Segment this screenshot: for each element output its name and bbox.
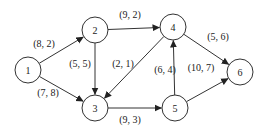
- node-label-2: 2: [93, 25, 98, 36]
- node-label-5: 5: [173, 103, 178, 114]
- node-label-6: 6: [238, 67, 243, 78]
- node-label-4: 4: [171, 22, 176, 33]
- node-label-3: 3: [93, 103, 98, 114]
- edge-label-4-6: (5, 6): [207, 31, 229, 43]
- edge-label-5-6: (10, 7): [188, 62, 215, 74]
- node-label-1: 1: [26, 65, 31, 76]
- edge-label-1-2: (8, 2): [33, 38, 55, 50]
- edge-label-2-4: (9, 2): [119, 9, 141, 21]
- edge-label-5-4: (6, 4): [154, 64, 176, 76]
- edge-label-2-3: (5, 5): [69, 58, 91, 70]
- edge-label-4-3: (2, 1): [112, 58, 134, 70]
- edge-label-3-5: (9, 3): [119, 114, 141, 126]
- edge-2-4: [108, 28, 160, 30]
- network-diagram: 123456 (8, 2)(7, 8)(9, 2)(5, 5)(2, 1)(9,…: [0, 0, 267, 129]
- edge-5-6: [186, 79, 228, 102]
- graph-canvas: 123456 (8, 2)(7, 8)(9, 2)(5, 5)(2, 1)(9,…: [0, 0, 267, 129]
- edge-label-1-3: (7, 8): [37, 87, 59, 99]
